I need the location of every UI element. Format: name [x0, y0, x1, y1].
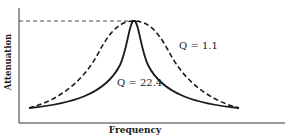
curve-q-low [29, 21, 239, 108]
resonance-chart: Q = 1.1 Q = 22.4 Frequency Attenuation [0, 0, 289, 137]
x-axis-label: Frequency [109, 125, 162, 135]
y-axis-label: Attenuation [3, 34, 13, 92]
annotation-q-high: Q = 22.4 [117, 77, 162, 88]
annotation-q-low: Q = 1.1 [179, 40, 218, 51]
